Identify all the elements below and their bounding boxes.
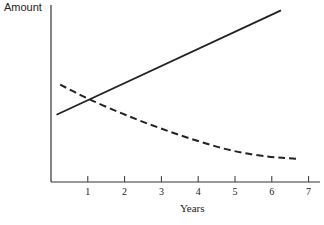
x-tick-label: 1	[82, 186, 94, 197]
y-axis-label: Amount	[4, 1, 42, 13]
x-tick-label: 4	[192, 186, 204, 197]
x-tick-label: 2	[119, 186, 131, 197]
x-axis-label: Years	[180, 202, 205, 214]
x-tick-label: 3	[155, 186, 167, 197]
x-tick-label: 6	[266, 186, 278, 197]
x-tick-label: 5	[229, 186, 241, 197]
x-tick-label: 7	[303, 186, 315, 197]
x-ticks	[88, 176, 309, 182]
